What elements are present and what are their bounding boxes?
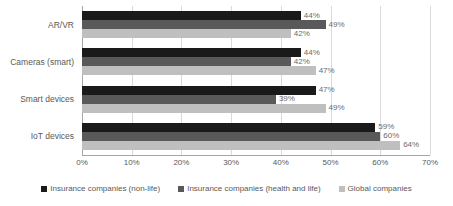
bar: [82, 29, 291, 38]
category-label: AR/VR: [0, 11, 78, 38]
x-axis-tick-label: 50%: [323, 159, 339, 167]
bar-value-label: 47%: [319, 86, 335, 94]
category-label-text: Smart devices: [20, 94, 74, 104]
bar-row: 64%: [82, 141, 419, 150]
x-axis-tick-label: 40%: [273, 159, 289, 167]
bar-value-label: 60%: [383, 132, 399, 140]
x-axis-tick-label: 60%: [372, 159, 388, 167]
x-axis-tick-labels: 0%10%20%30%40%50%60%70%: [0, 157, 453, 171]
bar-row: 49%: [82, 104, 345, 113]
bar-value-label: 47%: [319, 67, 335, 75]
x-axis-tick-label: 10%: [124, 159, 140, 167]
gridline: [430, 6, 431, 155]
legend-item[interactable]: Insurance companies (health and life): [178, 185, 320, 193]
bar-row: 47%: [82, 66, 335, 75]
x-axis-tick-label: 0%: [76, 159, 88, 167]
bar-value-label: 59%: [378, 123, 394, 131]
bar-row: 44%: [82, 11, 320, 20]
bar: [82, 66, 316, 75]
bar-value-label: 44%: [304, 12, 320, 20]
bar-chart: AR/VRCameras (smart)Smart devicesIoT dev…: [0, 0, 453, 206]
bar: [82, 20, 326, 29]
bar-row: 44%: [82, 48, 320, 57]
category-label: Cameras (smart): [0, 48, 78, 75]
legend-item[interactable]: Global companies: [339, 185, 412, 193]
bar: [82, 132, 380, 141]
bar: [82, 11, 301, 20]
bar-row: 49%: [82, 20, 345, 29]
bar: [82, 141, 400, 150]
x-axis-tick-label: 20%: [173, 159, 189, 167]
category-label: Smart devices: [0, 86, 78, 113]
bar: [82, 104, 326, 113]
bar-value-label: 64%: [403, 141, 419, 149]
bar-row: 42%: [82, 29, 310, 38]
plot-area: AR/VRCameras (smart)Smart devicesIoT dev…: [0, 0, 453, 175]
bar-row: 60%: [82, 132, 399, 141]
bar-row: 59%: [82, 123, 394, 132]
x-axis-tick-label: 30%: [223, 159, 239, 167]
bar-value-label: 42%: [294, 58, 310, 66]
legend-swatch-icon: [41, 186, 47, 192]
bar: [82, 123, 375, 132]
bar-value-label: 49%: [329, 104, 345, 112]
x-axis-tick-label: 70%: [422, 159, 438, 167]
bar: [82, 48, 301, 57]
category-label: IoT devices: [0, 123, 78, 150]
category-axis-line: [82, 155, 430, 156]
bar-row: 42%: [82, 57, 310, 66]
bar-value-label: 42%: [294, 30, 310, 38]
bar-value-label: 44%: [304, 49, 320, 57]
category-label-text: Cameras (smart): [10, 57, 74, 67]
bar-row: 39%: [82, 95, 295, 104]
bar-value-label: 49%: [329, 21, 345, 29]
legend-label: Insurance companies (non-life): [50, 185, 160, 193]
legend-swatch-icon: [178, 186, 184, 192]
legend-label: Insurance companies (health and life): [187, 185, 320, 193]
legend-swatch-icon: [339, 186, 345, 192]
chart-legend: Insurance companies (non-life)Insurance …: [0, 185, 453, 193]
legend-item[interactable]: Insurance companies (non-life): [41, 185, 160, 193]
bar-value-label: 39%: [279, 95, 295, 103]
bar: [82, 57, 291, 66]
bar: [82, 95, 276, 104]
legend-label: Global companies: [348, 185, 412, 193]
category-label-text: AR/VR: [48, 20, 74, 30]
category-label-text: IoT devices: [31, 131, 74, 141]
bar-row: 47%: [82, 86, 335, 95]
